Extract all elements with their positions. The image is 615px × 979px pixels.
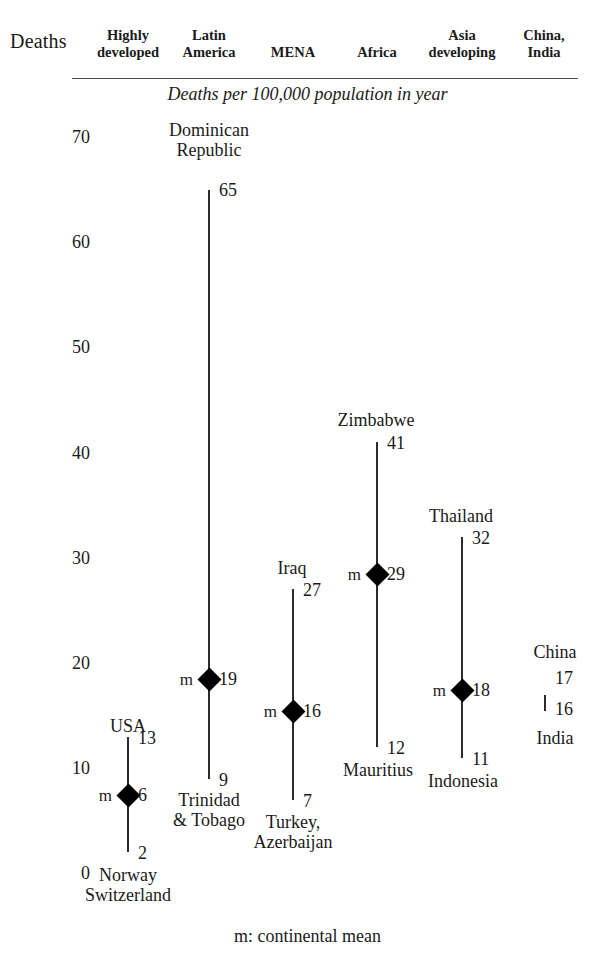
top-label-latin-america: Dominican Republic <box>144 120 274 160</box>
column-header-china-india: China, India <box>489 27 599 61</box>
bottom-value-latin-america: 9 <box>219 770 228 791</box>
mean-value-asia-developing: 18 <box>472 680 490 701</box>
top-label-china-india: China <box>505 642 605 662</box>
top-value-africa: 41 <box>387 433 405 454</box>
column-header-line1: China, <box>489 27 599 44</box>
mean-diamond-africa <box>365 562 389 586</box>
bottom-value-africa: 12 <box>387 738 405 759</box>
y-tick-70: 70 <box>48 127 90 148</box>
bottom-value-asia-developing: 11 <box>472 749 489 770</box>
range-line-africa <box>376 442 378 747</box>
top-label-highly-developed: USA <box>78 716 178 736</box>
top-value-asia-developing: 32 <box>472 528 490 549</box>
bottom-value-china-india: 16 <box>555 699 573 720</box>
bottom-label-line2: Azerbaijan <box>228 832 358 852</box>
mean-marker-mena: m <box>247 702 277 722</box>
mean-diamond-mena <box>281 699 305 723</box>
bottom-label-china-india: India <box>505 728 605 748</box>
y-axis-title: Deaths <box>10 30 67 53</box>
y-tick-20: 20 <box>48 653 90 674</box>
bottom-label-mena: Turkey, Azerbaijan <box>228 812 358 852</box>
chart-canvas: Deaths Highly developed Latin America ME… <box>0 0 615 979</box>
top-value-latin-america: 65 <box>219 180 237 201</box>
y-tick-10: 10 <box>48 758 90 779</box>
mean-diamond-highly-developed <box>116 783 140 807</box>
top-label-africa: Zimbabwe <box>316 410 436 430</box>
bottom-value-highly-developed: 2 <box>138 843 147 864</box>
y-tick-40: 40 <box>48 443 90 464</box>
chart-subtitle: Deaths per 100,000 population in year <box>0 84 615 105</box>
y-tick-60: 60 <box>48 232 90 253</box>
top-label-asia-developing: Thailand <box>406 506 516 526</box>
mean-marker-latin-america: m <box>163 670 193 690</box>
bottom-value-mena: 7 <box>303 791 312 812</box>
mean-diamond-asia-developing <box>450 678 474 702</box>
top-value-highly-developed: 13 <box>138 728 156 749</box>
mean-value-africa: 29 <box>387 564 405 585</box>
bottom-label-highly-developed: Norway Switzerland <box>62 865 194 905</box>
mean-value-mena: 16 <box>303 701 321 722</box>
y-tick-50: 50 <box>48 337 90 358</box>
bottom-label-line2: Switzerland <box>62 885 194 905</box>
header-divider-rule <box>72 78 578 79</box>
top-label-line1: Dominican <box>144 120 274 140</box>
mean-marker-asia-developing: m <box>416 681 446 701</box>
top-label-line2: Republic <box>144 140 274 160</box>
column-header-line2: India <box>489 44 599 61</box>
bottom-label-line1: Trinidad <box>144 790 274 810</box>
top-value-mena: 27 <box>303 580 321 601</box>
y-tick-30: 30 <box>48 548 90 569</box>
bottom-label-line1: Turkey, <box>228 812 358 832</box>
top-label-mena: Iraq <box>242 558 342 578</box>
bottom-label-line1: Norway <box>62 865 194 885</box>
mean-marker-highly-developed: m <box>82 786 112 806</box>
chart-footnote: m: continental mean <box>0 926 615 947</box>
range-line-china-india <box>544 695 546 711</box>
top-value-china-india: 17 <box>555 668 573 689</box>
range-line-mena <box>292 589 294 800</box>
mean-diamond-latin-america <box>197 667 221 691</box>
range-line-asia-developing <box>461 537 463 758</box>
mean-marker-africa: m <box>331 565 361 585</box>
mean-value-latin-america: 19 <box>219 669 237 690</box>
bottom-label-asia-developing: Indonesia <box>402 771 524 791</box>
